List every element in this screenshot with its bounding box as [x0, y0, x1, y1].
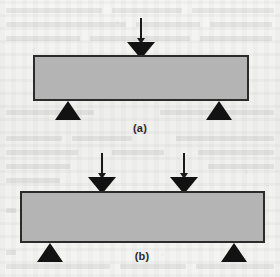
figure-root: (a) (b) — [0, 0, 280, 277]
panel-b-left-support-icon — [37, 243, 63, 262]
ghost-text-line — [198, 150, 274, 155]
ghost-text-line — [6, 164, 70, 169]
ghost-text-line — [112, 150, 164, 155]
panel-a-beam — [33, 55, 249, 101]
ghost-text-line — [6, 136, 62, 141]
ghost-text-line — [6, 22, 126, 27]
panel-a-caption: (a) — [120, 122, 160, 134]
panel-b-beam — [20, 191, 265, 243]
ghost-text-line — [200, 36, 272, 41]
ghost-text-line — [208, 164, 274, 169]
ghost-text-line — [210, 22, 272, 27]
load-arrow-shaft-icon — [183, 153, 185, 173]
panel-a-left-support-icon — [55, 101, 81, 120]
load-arrow-shaft-icon — [101, 153, 103, 173]
load-arrow-shaft-icon — [140, 18, 142, 38]
ghost-text-line — [192, 8, 274, 13]
ghost-text-line — [6, 264, 110, 269]
ghost-text-line — [6, 208, 16, 213]
ghost-text-line — [6, 178, 60, 183]
ghost-text-line — [6, 36, 80, 41]
ghost-text-line — [112, 8, 182, 13]
panel-b-caption: (b) — [122, 250, 162, 262]
ghost-text-line — [120, 264, 186, 269]
ghost-text-line — [136, 22, 200, 27]
panel-a-right-support-icon — [206, 101, 232, 120]
ghost-text-line — [6, 150, 78, 155]
ghost-text-line — [6, 8, 102, 13]
ghost-text-line — [72, 136, 132, 141]
ghost-text-line — [196, 264, 274, 269]
panel-b-right-support-icon — [221, 243, 247, 262]
ghost-text-line — [176, 136, 274, 141]
ghost-text-line — [6, 250, 16, 255]
